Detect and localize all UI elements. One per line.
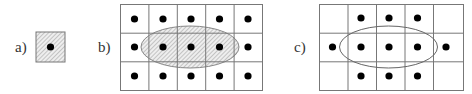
figure: a) b) c) [0,0,472,94]
panel-b-label: b) [98,39,111,56]
points-c [329,14,450,79]
panel-c: c) [294,5,464,91]
panel-a: a) [15,32,65,62]
panel-c-label: c) [294,39,306,56]
panel-a-label: a) [15,39,27,56]
sample-point [47,43,54,50]
panel-b: b) [98,5,263,91]
